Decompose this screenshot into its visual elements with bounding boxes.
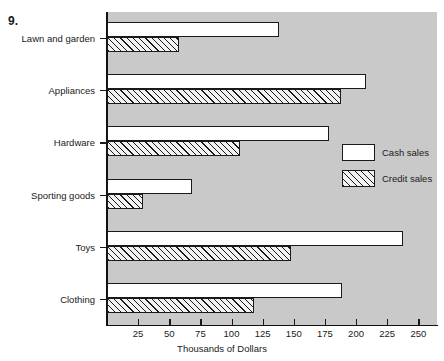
x-tick-label-75: 75 <box>195 328 206 339</box>
x-tick-225 <box>387 319 388 325</box>
legend-label-credit: Credit sales <box>382 173 432 184</box>
category-label-5: Clothing <box>60 293 95 304</box>
category-tick-1 <box>100 90 107 91</box>
category-label-3: Sporting goods <box>31 189 95 200</box>
x-tick-label-175: 175 <box>317 328 333 339</box>
x-tick-200 <box>356 319 357 325</box>
x-tick-label-25: 25 <box>133 328 144 339</box>
legend-item-cash-sales: Cash sales <box>342 144 432 161</box>
legend-swatch-cash-icon <box>342 144 375 161</box>
bar-cash-4 <box>107 231 403 246</box>
bar-credit-5 <box>107 298 254 313</box>
bar-cash-0 <box>107 22 279 37</box>
x-tick-label-100: 100 <box>224 328 240 339</box>
category-label-4: Toys <box>75 241 95 252</box>
x-tick-75 <box>200 319 201 325</box>
figure-container: 9. Lawn and gardenAppliancesHardwareSpor… <box>0 0 444 361</box>
x-tick-100 <box>232 319 233 325</box>
x-tick-125 <box>263 319 264 325</box>
x-tick-50 <box>169 319 170 325</box>
x-tick-175 <box>325 319 326 325</box>
x-axis-line <box>107 325 438 326</box>
x-tick-label-250: 250 <box>410 328 426 339</box>
bar-credit-1 <box>107 89 341 104</box>
bar-credit-3 <box>107 194 143 209</box>
x-tick-label-150: 150 <box>286 328 302 339</box>
x-tick-150 <box>294 319 295 325</box>
bar-cash-2 <box>107 126 329 141</box>
bar-credit-2 <box>107 141 240 156</box>
category-label-0: Lawn and garden <box>22 33 95 44</box>
figure-number-label: 9. <box>8 14 18 28</box>
x-axis-title: Thousands of Dollars <box>0 343 444 354</box>
x-tick-label-50: 50 <box>164 328 175 339</box>
bar-cash-5 <box>107 283 342 298</box>
x-tick-25 <box>138 319 139 325</box>
chart-legend: Cash sales Credit sales <box>342 144 432 196</box>
x-tick-label-225: 225 <box>379 328 395 339</box>
category-tick-3 <box>100 195 107 196</box>
category-tick-5 <box>100 299 107 300</box>
bar-credit-4 <box>107 246 291 261</box>
bar-cash-3 <box>107 179 192 194</box>
y-axis-line <box>106 12 108 326</box>
x-tick-250 <box>418 319 419 325</box>
bar-credit-0 <box>107 37 179 52</box>
x-tick-label-200: 200 <box>348 328 364 339</box>
category-label-2: Hardware <box>54 137 95 148</box>
bar-cash-1 <box>107 74 366 89</box>
category-tick-4 <box>100 247 107 248</box>
x-tick-label-125: 125 <box>255 328 271 339</box>
category-label-1: Appliances <box>49 85 95 96</box>
legend-swatch-credit-icon <box>342 170 375 187</box>
category-tick-0 <box>100 38 107 39</box>
legend-item-credit-sales: Credit sales <box>342 170 432 187</box>
legend-label-cash: Cash sales <box>382 147 429 158</box>
category-tick-2 <box>100 142 107 143</box>
